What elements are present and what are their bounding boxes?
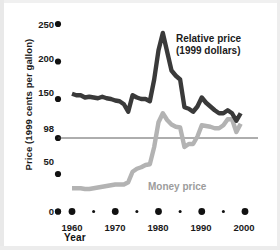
y-tick-dot-50 bbox=[55, 171, 61, 177]
x-minor-tick-dot-1965 bbox=[92, 210, 95, 213]
series-path-money-price bbox=[72, 113, 241, 189]
axis-origin-dot bbox=[55, 208, 61, 214]
plot-area bbox=[0, 0, 280, 250]
x-minor-tick-dot-1975 bbox=[135, 210, 138, 213]
x-tick-dot-1960 bbox=[69, 208, 76, 215]
y-tick-dot-200 bbox=[55, 58, 61, 64]
axis-tick-dots bbox=[55, 21, 249, 215]
y-tick-dot-150 bbox=[55, 96, 61, 102]
x-minor-tick-dot-1985 bbox=[179, 210, 182, 213]
x-tick-dot-2000 bbox=[242, 208, 249, 215]
y-tick-dot-250 bbox=[55, 21, 61, 27]
x-tick-dot-1980 bbox=[155, 208, 162, 215]
x-minor-tick-dot-1995 bbox=[222, 210, 225, 213]
x-tick-dot-1990 bbox=[198, 208, 205, 215]
chart-figure: Price (1999 cents per gallon) 250 200 15… bbox=[0, 0, 280, 250]
x-tick-dot-1970 bbox=[112, 208, 119, 215]
series-path-relative-price bbox=[72, 33, 241, 121]
